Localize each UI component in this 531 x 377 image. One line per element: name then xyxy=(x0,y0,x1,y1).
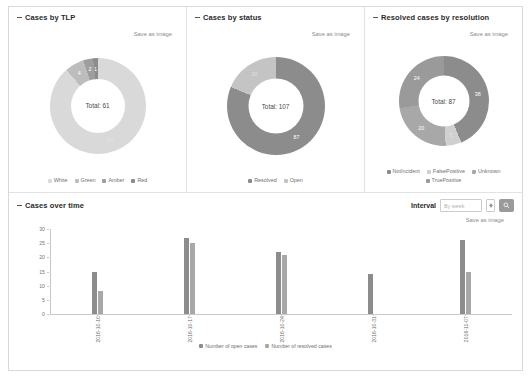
search-icon xyxy=(503,202,510,209)
bar-open-cases[interactable] xyxy=(368,274,373,314)
legend-swatch-icon xyxy=(472,170,476,174)
legend-item[interactable]: White xyxy=(48,176,68,185)
legend-item[interactable]: Red xyxy=(131,176,147,185)
legend-swatch-icon xyxy=(427,170,431,174)
x-axis-tick-mark xyxy=(97,314,98,316)
donut-center-label-tlp: Total: 61 xyxy=(85,102,109,109)
y-axis-tick-label: 15 xyxy=(39,269,45,275)
donut-segment-label: 38 xyxy=(475,91,481,97)
donut-chart-resolution: Total: 87 3852024 xyxy=(373,35,514,167)
legend-item[interactable]: Open xyxy=(284,176,303,185)
legend-item[interactable]: FalsePositive xyxy=(427,167,465,176)
y-axis-tick-mark xyxy=(47,243,49,244)
bar-group xyxy=(368,274,379,314)
interval-controls: Interval By week xyxy=(411,199,514,212)
bar-open-cases[interactable] xyxy=(460,240,465,314)
legend-item-label: Red xyxy=(137,176,147,185)
legend-item-label: TruePositive xyxy=(432,176,462,185)
legend-swatch-icon xyxy=(284,179,288,183)
bar-resolved-cases[interactable] xyxy=(282,255,287,315)
legend-swatch-icon xyxy=(199,344,203,348)
stepper-icon[interactable] xyxy=(486,199,495,212)
bar-chart-cases-over-time: 051015202530 2016-10-102016-10-172016-10… xyxy=(17,225,514,353)
legend-tlp: WhiteGreenAmberRed xyxy=(17,176,178,188)
collapse-icon[interactable] xyxy=(17,17,22,18)
panel-cases-over-time: Cases over time Interval By week Save as… xyxy=(9,192,522,371)
legend-item[interactable]: NotIncident xyxy=(387,167,420,176)
legend-item[interactable]: Amber xyxy=(102,176,124,185)
donut-segment-label: 54 xyxy=(108,137,114,143)
interval-select[interactable]: By week xyxy=(440,199,482,212)
x-axis-tick-label: 2016-10-10 xyxy=(95,316,101,343)
legend-swatch-icon xyxy=(48,179,52,183)
legend-item[interactable]: TruePositive xyxy=(426,176,462,185)
bar-resolved-cases[interactable] xyxy=(466,272,471,315)
x-axis-tick-label: 2016-10-17 xyxy=(187,316,193,343)
donut-segment-label: 20 xyxy=(418,125,424,131)
legend-item[interactable]: Number of open cases xyxy=(199,343,257,349)
donut-segment-label: 1 xyxy=(94,66,97,72)
panel-title-status: Cases by status xyxy=(195,13,356,22)
y-axis-tick-mark xyxy=(47,300,49,301)
dashboard-page: Cases by TLP Save as image Total: 61 544… xyxy=(8,6,523,371)
donut-segment-label: 5 xyxy=(450,132,453,138)
cases-over-time-header: Cases over time Interval By week xyxy=(17,199,514,212)
legend-swatch-icon xyxy=(426,179,430,183)
donut-chart-status: Total: 107 8720 xyxy=(195,35,356,176)
collapse-icon[interactable] xyxy=(17,205,22,206)
x-axis-tick-mark xyxy=(465,314,466,316)
panel-resolved-by-resolution: Resolved cases by resolution Save as ima… xyxy=(365,7,522,192)
legend-item[interactable]: Number of resolved cases xyxy=(265,343,331,349)
legend-status: ResolvedOpen xyxy=(195,176,356,188)
legend-item-label: Number of open cases xyxy=(205,343,257,349)
x-axis-tick-label: 2016-10-31 xyxy=(371,316,377,343)
y-axis-tick-mark xyxy=(47,257,49,258)
legend-item[interactable]: Resolved xyxy=(248,176,276,185)
bar-resolved-cases[interactable] xyxy=(98,291,103,314)
bar-group xyxy=(92,272,103,315)
y-axis-tick-mark xyxy=(47,229,49,230)
legend-item-label: Green xyxy=(81,176,96,185)
legend-cases-over-time: Number of open casesNumber of resolved c… xyxy=(17,343,514,349)
legend-item-label: Open xyxy=(290,176,303,185)
top-row: Cases by TLP Save as image Total: 61 544… xyxy=(9,7,522,192)
bar-open-cases[interactable] xyxy=(276,252,281,314)
donut-segment-label: 24 xyxy=(414,75,420,81)
collapse-icon[interactable] xyxy=(195,17,200,18)
bar-open-cases[interactable] xyxy=(184,238,189,315)
legend-item[interactable]: Unknown xyxy=(472,167,500,176)
bar-resolved-cases[interactable] xyxy=(190,243,195,314)
y-axis-tick-mark xyxy=(47,272,49,273)
legend-swatch-icon xyxy=(75,179,79,183)
legend-item[interactable]: Green xyxy=(75,176,96,185)
x-axis-tick-mark xyxy=(281,314,282,316)
legend-swatch-icon xyxy=(131,179,135,183)
legend-item-label: Amber xyxy=(108,176,124,185)
y-axis-tick-label: 0 xyxy=(42,311,45,317)
y-axis-tick-label: 20 xyxy=(39,254,45,260)
legend-item-label: Resolved xyxy=(254,176,276,185)
donut-segment-label: 87 xyxy=(294,134,300,140)
x-axis-tick-mark xyxy=(189,314,190,316)
legend-item-label: FalsePositive xyxy=(433,167,465,176)
bar-group xyxy=(184,238,195,315)
y-axis-tick-mark xyxy=(47,286,49,287)
panel-cases-by-tlp: Cases by TLP Save as image Total: 61 544… xyxy=(9,7,187,192)
donut-segment-label: 20 xyxy=(251,71,257,77)
y-axis-tick-label: 25 xyxy=(39,240,45,246)
y-axis-tick-label: 5 xyxy=(42,297,45,303)
donut-center-label-status: Total: 107 xyxy=(262,102,290,109)
panel-title-overtime: Cases over time xyxy=(17,201,84,210)
y-axis-tick-mark xyxy=(47,314,49,315)
legend-item-label: White xyxy=(54,176,68,185)
panel-cases-by-status: Cases by status Save as image Total: 107… xyxy=(187,7,365,192)
legend-item-label: Unknown xyxy=(478,167,500,176)
x-axis-tick-label: 2016-11-07 xyxy=(463,316,469,342)
collapse-icon[interactable] xyxy=(373,17,378,18)
donut-segment-label: 4 xyxy=(78,70,81,76)
bar-open-cases[interactable] xyxy=(92,272,97,315)
y-axis: 051015202530 xyxy=(35,229,49,314)
bar-group xyxy=(276,252,287,314)
search-button[interactable] xyxy=(499,199,514,212)
save-as-image-link-overtime[interactable]: Save as image xyxy=(17,217,504,223)
